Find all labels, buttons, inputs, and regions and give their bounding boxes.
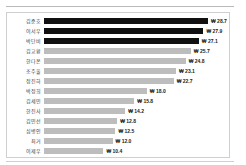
bar-fill <box>44 18 208 24</box>
bar-fill <box>44 118 117 124</box>
bar-row: 김교환₩ 25.7 <box>7 46 229 56</box>
bar-category-label: 김세민 <box>7 96 44 106</box>
bar-row: 한진사₩ 14.2 <box>7 106 229 116</box>
bar-category-label: 한다온 <box>7 56 44 66</box>
bar-category-label: 박단비 <box>7 36 44 46</box>
bar-value-label: ₩ 18.0 <box>150 86 166 96</box>
bar-fill <box>44 68 176 74</box>
bar-row: 김민선₩ 12.8 <box>7 116 229 126</box>
bar-row: 한다온₩ 24.8 <box>7 56 229 66</box>
bar-category-label: 이제우 <box>7 146 44 156</box>
bar-track: ₩ 12.8 <box>44 116 229 126</box>
bar-row: 김준호₩ 28.7 <box>7 16 229 26</box>
bar-category-label: 김민선 <box>7 116 44 126</box>
bar-fill <box>44 88 147 94</box>
bar-track: ₩ 22.7 <box>44 76 229 86</box>
bar-category-label: 한진사 <box>7 106 44 116</box>
bar-track: ₩ 28.7 <box>44 16 229 26</box>
bar-value-label: ₩ 12.8 <box>120 116 136 126</box>
bar-fill <box>44 38 199 44</box>
bar-category-label: 심병인 <box>7 126 44 136</box>
bar-value-label: ₩ 12.0 <box>116 136 132 146</box>
bar-row: 박단비₩ 27.1 <box>7 36 229 46</box>
bar-fill <box>44 128 115 134</box>
bar-track: ₩ 15.8 <box>44 96 229 106</box>
bar-category-label: 조주울 <box>7 66 44 76</box>
bar-category-label: 박정희 <box>7 86 44 96</box>
bar-category-label: 이서우 <box>7 26 44 36</box>
bar-value-label: ₩ 22.7 <box>177 76 193 86</box>
bar-fill <box>44 138 113 144</box>
bar-category-label: 최거 <box>7 136 44 146</box>
bar-fill <box>44 28 203 34</box>
bar-row: 박정희₩ 18.0 <box>7 86 229 96</box>
bar-value-label: ₩ 23.1 <box>179 66 195 76</box>
bar-value-label: ₩ 27.1 <box>202 36 218 46</box>
bar-category-label: 정진하 <box>7 76 44 86</box>
bar-row: 이서우₩ 27.9 <box>7 26 229 36</box>
bar-row: 이제우₩ 10.4 <box>7 146 229 156</box>
bar-value-label: ₩ 12.5 <box>118 126 134 136</box>
bar-fill <box>44 98 134 104</box>
bar-category-label: 김준호 <box>7 16 44 26</box>
bar-fill <box>44 108 125 114</box>
bar-value-label: ₩ 24.8 <box>189 56 205 66</box>
plot-frame: 김준호₩ 28.7이서우₩ 27.9박단비₩ 27.1김교환₩ 25.7한다온₩… <box>6 12 230 158</box>
bar-track: ₩ 27.9 <box>44 26 229 36</box>
bar-value-label: ₩ 27.9 <box>206 26 222 36</box>
bar-track: ₩ 24.8 <box>44 56 229 66</box>
bar-value-label: ₩ 15.8 <box>137 96 153 106</box>
bar-category-label: 김교환 <box>7 46 44 56</box>
bar-track: ₩ 10.4 <box>44 146 229 156</box>
bar-row: 김세민₩ 15.8 <box>7 96 229 106</box>
horizontal-bar-chart-widget: 김준호₩ 28.7이서우₩ 27.9박단비₩ 27.1김교환₩ 25.7한다온₩… <box>0 0 246 165</box>
bar-value-label: ₩ 25.7 <box>194 46 210 56</box>
bar-value-label: ₩ 28.7 <box>211 16 227 26</box>
bar-fill <box>44 58 186 64</box>
bar-row: 최거₩ 12.0 <box>7 136 229 146</box>
bar-track: ₩ 12.5 <box>44 126 229 136</box>
bar-value-label: ₩ 10.4 <box>106 146 122 156</box>
bar-track: ₩ 27.1 <box>44 36 229 46</box>
bar-track: ₩ 14.2 <box>44 106 229 116</box>
bar-track: ₩ 18.0 <box>44 86 229 96</box>
bar-fill <box>44 48 191 54</box>
bar-track: ₩ 23.1 <box>44 66 229 76</box>
bar-fill <box>44 148 103 154</box>
bar-track: ₩ 12.0 <box>44 136 229 146</box>
top-divider <box>6 6 234 7</box>
bar-value-label: ₩ 14.2 <box>128 106 144 116</box>
bar-row: 심병인₩ 12.5 <box>7 126 229 136</box>
bar-row: 조주울₩ 23.1 <box>7 66 229 76</box>
bar-fill <box>44 78 174 84</box>
bar-track: ₩ 25.7 <box>44 46 229 56</box>
bottom-divider <box>6 161 234 162</box>
bar-rows-container: 김준호₩ 28.7이서우₩ 27.9박단비₩ 27.1김교환₩ 25.7한다온₩… <box>7 16 229 156</box>
bar-row: 정진하₩ 22.7 <box>7 76 229 86</box>
